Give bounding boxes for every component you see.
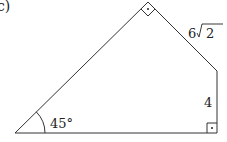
slant-side-label: 6 2 — [188, 24, 223, 41]
figure-outline — [15, 2, 217, 133]
angle-arc — [36, 112, 45, 133]
right-angle-marker-bottom-right — [207, 123, 217, 133]
part-label: c) — [0, 0, 10, 14]
pentagon-diagram: c) 45° 6 2 4 — [0, 0, 227, 142]
slant-coefficient: 6 — [188, 26, 196, 41]
right-angle-marker-top — [141, 8, 155, 16]
slant-radicand: 2 — [206, 26, 214, 41]
angle-label: 45° — [50, 116, 73, 131]
vertical-side-label: 4 — [204, 95, 212, 110]
